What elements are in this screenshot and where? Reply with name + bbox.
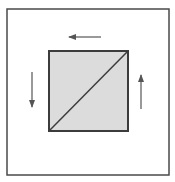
circulation-diagram bbox=[0, 0, 175, 182]
